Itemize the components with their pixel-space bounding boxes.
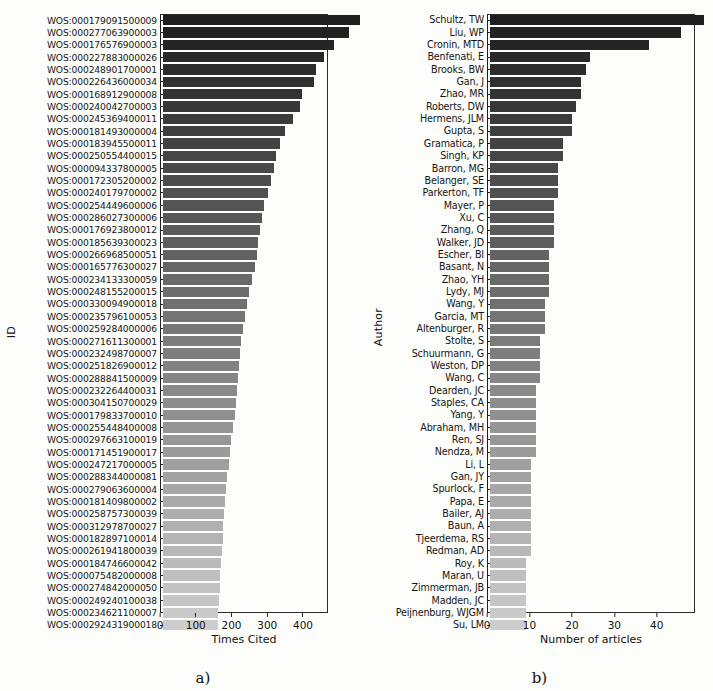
bar-track [163, 174, 366, 186]
bar-row: WOS:000286027300006 [0, 212, 366, 224]
x-tick-label: 0 [157, 619, 164, 631]
bar-track [163, 88, 366, 100]
bar-category-label: Dearden, JC [366, 386, 487, 396]
bar-row: Gupta, S [366, 125, 713, 137]
bar-row: Schultz, TW [366, 14, 713, 26]
bar-category-label: WOS:000297663100019 [0, 435, 160, 444]
bar-category-label: WOS:000255448400008 [0, 423, 160, 432]
bar [490, 459, 531, 469]
x-tick: 20 [565, 613, 578, 631]
bar-row: WOS:000232498700007 [0, 347, 366, 359]
bar-category-label: Schultz, TW [366, 15, 487, 25]
bar-track [163, 100, 366, 112]
bar [490, 521, 531, 531]
bar-category-label: Madden, JC [366, 596, 487, 606]
bar-track [163, 446, 366, 458]
bar-row: Walker, JD [366, 236, 713, 248]
bar-track [490, 532, 713, 544]
bar-row: WOS:000172305200002 [0, 174, 366, 186]
bar-track [163, 347, 366, 359]
x-tick-label: 200 [221, 619, 241, 631]
bar-category-label: WOS:000094337800005 [0, 164, 160, 173]
panel-caption-b: b) [366, 669, 713, 687]
bar-track [490, 199, 713, 211]
bar-row: WOS:000094337800005 [0, 162, 366, 174]
x-tick-label: 40 [650, 619, 663, 631]
bar-row: Garcia, MT [366, 310, 713, 322]
bar-category-label: WOS:000304150700029 [0, 398, 160, 407]
bar-category-label: Su, LM [366, 620, 487, 630]
bar [490, 435, 536, 445]
bar-category-label: Weston, DP [366, 361, 487, 371]
bar-row: WOS:000226436000034 [0, 76, 366, 88]
bar [490, 361, 540, 371]
bar [163, 546, 222, 556]
bar-track [490, 51, 713, 63]
bar [490, 373, 540, 383]
bar-category-label: WOS:000176576900003 [0, 40, 160, 49]
bar [163, 89, 302, 99]
bar [490, 324, 545, 334]
bar-row: Abraham, MH [366, 421, 713, 433]
bar-category-label: Abraham, MH [366, 423, 487, 433]
bar-row: WOS:000227883000026 [0, 51, 366, 63]
bar-track [490, 446, 713, 458]
bar-category-label: WOS:000250554400015 [0, 151, 160, 160]
panel-articles-per-author: Author Schultz, TWLiu, WPCronin, MTDBenf… [366, 0, 713, 691]
bar-row: WOS:000247217000005 [0, 458, 366, 470]
bar-category-label: WOS:000183945500011 [0, 139, 160, 148]
bar-row: WOS:000183945500011 [0, 137, 366, 149]
bar [163, 287, 249, 297]
bar [490, 64, 586, 74]
bar-row: WOS:000250554400015 [0, 150, 366, 162]
bar [490, 348, 540, 358]
bar [490, 101, 576, 111]
bar-track [163, 249, 366, 261]
bar-track [163, 323, 366, 335]
bar-category-label: Bailer, AJ [366, 509, 487, 519]
bar [163, 200, 264, 210]
bar [163, 299, 247, 309]
bar-track [163, 212, 366, 224]
bar-category-label: WOS:000286027300006 [0, 213, 160, 222]
bar-row: Spurlock, F [366, 483, 713, 495]
bar-category-label: WOS:000330094900018 [0, 299, 160, 308]
bar [490, 496, 531, 506]
bar-row: Benfenati, E [366, 51, 713, 63]
bar [490, 410, 536, 420]
bar [490, 274, 549, 284]
bar [490, 570, 526, 580]
bar-row: Redman, AD [366, 545, 713, 557]
bar-category-label: Peijnenburg, WJGM [366, 608, 487, 618]
bar-track [163, 384, 366, 396]
bar [490, 138, 563, 148]
bar-category-label: WOS:000249240100038 [0, 596, 160, 605]
bar-track [163, 63, 366, 75]
bar [490, 250, 549, 260]
bar-track [163, 421, 366, 433]
bar [490, 472, 531, 482]
bar-category-label: WOS:000232264400031 [0, 386, 160, 395]
bar [490, 188, 558, 198]
bar-row: Zhao, YH [366, 273, 713, 285]
bar-track [490, 384, 713, 396]
bar-category-label: WOS:000271611300001 [0, 337, 160, 346]
bar-row: WOS:000182897100014 [0, 532, 366, 544]
bar-row: WOS:000271611300001 [0, 335, 366, 347]
bar-row: Stolte, S [366, 335, 713, 347]
bar-track [490, 471, 713, 483]
bar-track [490, 100, 713, 112]
bar-row: WOS:000234133300059 [0, 273, 366, 285]
bar [490, 151, 563, 161]
bar [490, 447, 536, 457]
x-tick-mark [231, 613, 232, 617]
x-tick-mark [302, 613, 303, 617]
plot-area-a: ID WOS:000179091500009WOS:00027706390000… [0, 8, 366, 691]
bar [490, 583, 526, 593]
bar-category-label: WOS:000234621100007 [0, 608, 160, 617]
bar-track [163, 113, 366, 125]
bar [490, 89, 581, 99]
x-tick-label: 100 [186, 619, 206, 631]
bar [490, 336, 540, 346]
x-tick: 100 [186, 613, 206, 631]
